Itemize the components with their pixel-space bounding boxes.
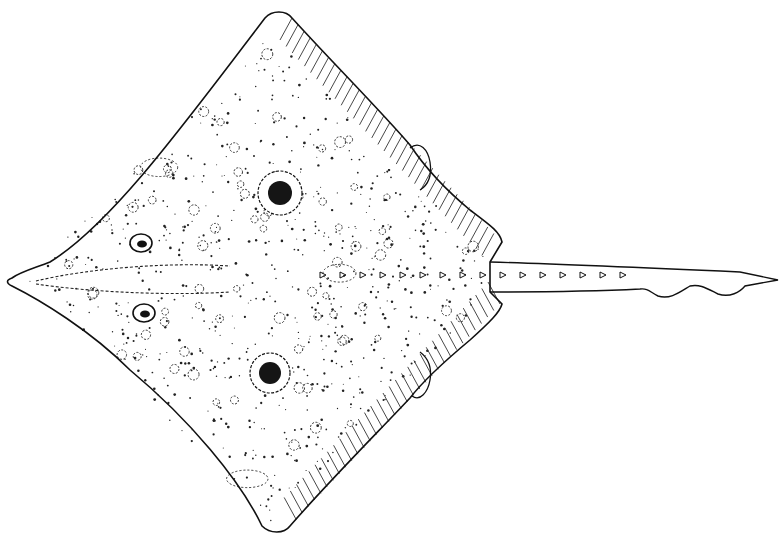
speckle <box>264 394 267 397</box>
speckle <box>66 301 67 302</box>
speckle <box>350 338 352 340</box>
speckle <box>317 302 319 304</box>
speckle <box>295 125 297 127</box>
speckle <box>252 282 254 284</box>
speckle <box>249 426 251 428</box>
speckle <box>281 240 284 243</box>
speckle <box>350 407 351 408</box>
speckle <box>347 117 348 118</box>
thorn-icon <box>360 272 366 278</box>
speckle <box>111 224 112 225</box>
speckle <box>318 230 320 232</box>
speckle <box>271 99 273 101</box>
speckle <box>133 173 135 175</box>
speckle <box>239 375 240 376</box>
speckle <box>295 219 296 220</box>
speckle <box>77 236 79 238</box>
speckle <box>144 379 146 381</box>
speckle <box>138 272 140 274</box>
speckle <box>167 206 169 208</box>
speckle <box>303 229 305 231</box>
speckle <box>274 475 275 476</box>
speckle <box>399 193 401 195</box>
speckle <box>448 300 451 303</box>
speckle <box>164 226 166 228</box>
thorn-icon <box>340 272 346 278</box>
speckle <box>461 269 463 271</box>
speckle <box>207 411 208 412</box>
speckle <box>272 487 273 488</box>
speckle <box>328 237 329 238</box>
speckle <box>245 452 247 454</box>
speckle <box>111 229 112 230</box>
speckle <box>273 163 274 164</box>
speckle <box>285 409 286 410</box>
speckle <box>212 118 213 119</box>
fin-ray <box>286 25 298 47</box>
speckle <box>125 214 128 217</box>
speckle <box>262 43 263 44</box>
speckle <box>341 366 343 368</box>
speckle <box>390 379 392 381</box>
speckle <box>298 97 299 98</box>
ring-spot <box>318 145 325 152</box>
speckle <box>316 191 317 192</box>
speckle <box>127 205 128 206</box>
fin-ray <box>311 51 323 73</box>
thorn-icon <box>520 272 526 278</box>
speckle <box>423 266 426 269</box>
speckle <box>233 210 234 211</box>
speckle <box>350 361 352 363</box>
fin-ray <box>402 373 414 395</box>
speckle <box>334 332 336 334</box>
speckle <box>300 171 301 172</box>
thorn-icon <box>480 272 486 278</box>
speckle <box>248 420 251 423</box>
speckle <box>292 286 293 287</box>
speckle <box>272 79 274 81</box>
ring-spot <box>345 136 352 143</box>
speckle <box>235 262 238 265</box>
speckle <box>410 316 412 318</box>
speckle <box>292 95 294 97</box>
speckle <box>315 443 317 445</box>
fin-ray <box>378 122 390 144</box>
speckle <box>219 407 221 409</box>
fin-ray <box>304 44 316 66</box>
speckle <box>253 155 255 157</box>
speckle <box>328 335 330 337</box>
speckle <box>297 288 299 290</box>
speckle <box>218 239 221 242</box>
speckle <box>336 363 338 365</box>
speckle <box>383 399 385 401</box>
speckle <box>268 332 270 334</box>
speckle <box>274 300 276 302</box>
speckle <box>226 156 227 157</box>
speckle <box>286 314 288 316</box>
speckle <box>370 291 372 293</box>
speckle <box>370 187 373 190</box>
speckle <box>158 359 160 361</box>
speckle <box>286 220 288 222</box>
speckle <box>306 395 308 397</box>
fin-ray <box>384 129 396 151</box>
pupil-icon <box>137 240 147 247</box>
speckle <box>315 225 317 227</box>
speckle <box>288 160 291 163</box>
speckle <box>182 242 184 244</box>
speckle <box>146 356 147 357</box>
fin-ray <box>469 302 481 324</box>
ring-spot <box>213 399 220 406</box>
speckle <box>414 206 417 209</box>
speckle <box>317 164 319 166</box>
speckle <box>342 240 344 242</box>
speckle <box>245 273 247 275</box>
speckle <box>410 306 412 308</box>
eyespots <box>250 171 302 393</box>
speckle <box>427 317 429 319</box>
speckle <box>134 199 136 201</box>
ring-spot <box>230 396 238 404</box>
speckle <box>329 98 331 100</box>
speckle <box>305 193 307 195</box>
fin-ray <box>358 419 370 441</box>
